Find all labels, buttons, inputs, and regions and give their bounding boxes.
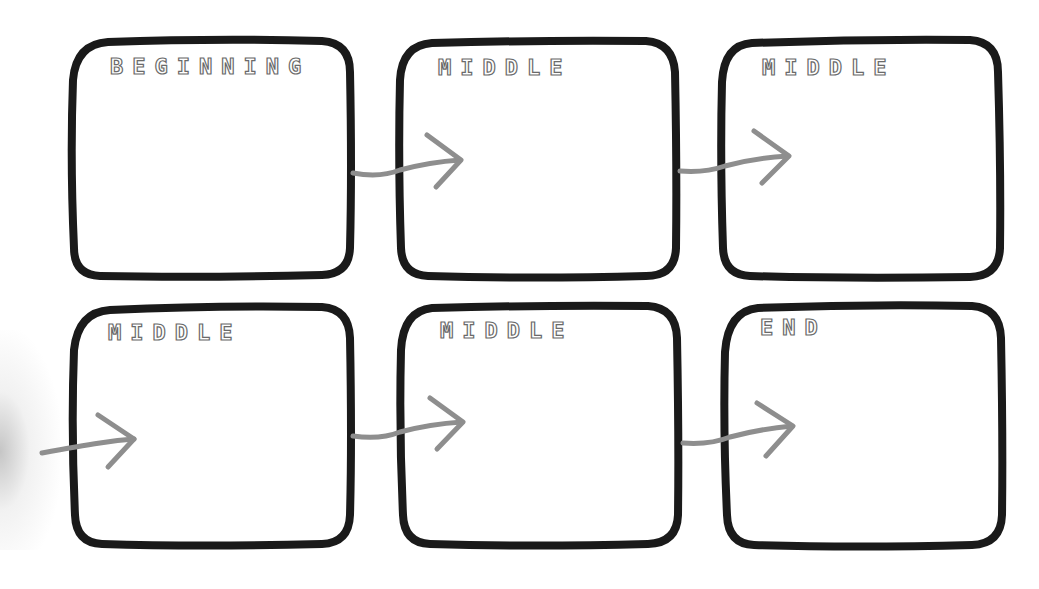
panel-label-middle-4: MIDDLE xyxy=(440,320,573,342)
arrow-4-to-5 xyxy=(353,398,463,449)
panel-label-middle-3: MIDDLE xyxy=(108,322,241,344)
storyboard-diagram xyxy=(0,0,1039,589)
panel-box-6[interactable] xyxy=(724,305,1002,546)
arrow-edge-to-4 xyxy=(42,415,134,467)
panel-label-end: END xyxy=(760,317,827,339)
arrow-2-to-3 xyxy=(680,131,789,183)
panel-label-middle-1: MIDDLE xyxy=(438,57,571,79)
panel-label-beginning: BEGINNING xyxy=(110,56,310,78)
arrow-1-to-2 xyxy=(353,135,461,187)
arrow-5-to-6 xyxy=(683,403,793,456)
panel-label-middle-2: MIDDLE xyxy=(762,57,895,79)
